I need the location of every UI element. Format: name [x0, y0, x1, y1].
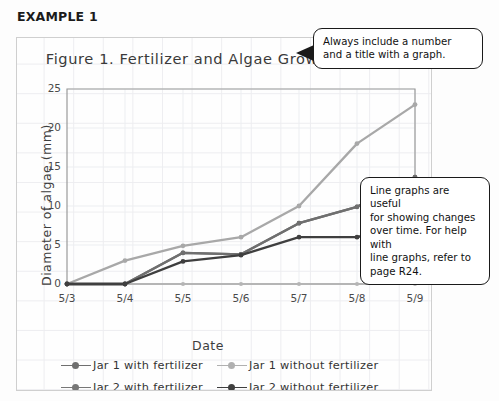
callout-line: over time. For help with [370, 224, 481, 251]
x-axis-tick-label: 5/5 [165, 292, 201, 304]
callout-line: Line graphs are useful [370, 184, 481, 211]
callout-pointer-icon [296, 45, 314, 61]
legend-row: Jar 1 with fertilizer Jar 1 without fert… [39, 354, 409, 376]
y-axis-tick-label: 10 [39, 199, 61, 211]
legend-item-jar1-with: Jar 1 with fertilizer [61, 354, 203, 376]
x-axis-tick-label: 5/9 [397, 292, 432, 304]
callout-line: for showing changes [370, 211, 481, 224]
x-axis-tick-label: 5/7 [281, 292, 317, 304]
legend-row: Jar 2 with fertilizer Jar 2 without fert… [39, 376, 409, 391]
page-root: EXAMPLE 1 Figure 1. Fertilizer and Algae… [0, 0, 499, 401]
legend-label: Jar 1 with fertilizer [93, 359, 203, 372]
y-axis-tick-label: 25 [39, 82, 61, 94]
legend-marker-icon [217, 360, 247, 371]
example-heading: EXAMPLE 1 [17, 9, 98, 24]
x-axis-tick-label: 5/8 [339, 292, 375, 304]
legend-label: Jar 2 with fertilizer [93, 381, 203, 392]
x-axis-tick-label: 5/6 [223, 292, 259, 304]
legend-label: Jar 1 without fertilizer [249, 359, 378, 372]
y-axis-tick-label: 5 [39, 238, 61, 250]
legend-marker-icon [61, 382, 91, 392]
legend-item-jar2-without: Jar 2 without fertilizer [217, 376, 378, 391]
callout-linegraph-note: Line graphs are useful for showing chang… [360, 177, 490, 285]
legend-label: Jar 2 without fertilizer [249, 381, 378, 392]
callout-line: Always include a number [323, 35, 474, 48]
y-axis-tick-label: 15 [39, 160, 61, 172]
callout-title-note: Always include a number and a title with… [313, 28, 483, 69]
x-axis-tick-label: 5/3 [49, 292, 85, 304]
x-axis-tick-label: 5/4 [107, 292, 143, 304]
callout-line: and a title with a graph. [323, 48, 474, 61]
legend-item-jar1-without: Jar 1 without fertilizer [217, 354, 378, 376]
callout-line: page R24. [370, 265, 481, 278]
chart-legend: Jar 1 with fertilizer Jar 1 without fert… [39, 354, 409, 391]
y-axis-tick-label: 20 [39, 121, 61, 133]
y-axis-tick-label: 0 [39, 277, 61, 289]
legend-marker-icon [61, 360, 91, 371]
callout-line: line graphs, refer to [370, 251, 481, 264]
x-axis-title: Date [192, 338, 224, 353]
legend-item-jar2-with: Jar 2 with fertilizer [61, 376, 203, 391]
legend-marker-icon [217, 382, 247, 392]
